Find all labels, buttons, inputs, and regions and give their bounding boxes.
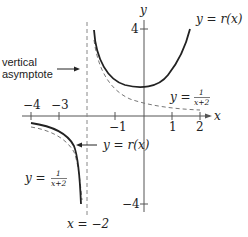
asymptote-label-line2: asymptote: [2, 68, 53, 80]
reciprocal-label-left: y = 1 x+2: [24, 169, 67, 188]
r-label-top: y = r(x): [195, 12, 243, 26]
svg-text:y =: y =: [24, 171, 46, 185]
svg-text:y =: y =: [169, 90, 191, 104]
x-axis-arrow-icon: [205, 114, 212, 119]
tick-label-yneg4: −4: [122, 197, 140, 211]
tick-label-2: 2: [196, 120, 204, 134]
r-curve-right: [94, 29, 190, 87]
tick-label-1: 1: [169, 120, 177, 134]
left-branch-arrow-icon: [76, 143, 82, 148]
reciprocal-label-right: y = 1 x+2: [169, 88, 210, 107]
svg-text:x+2: x+2: [51, 179, 67, 188]
tick-label-neg1: −1: [109, 120, 127, 134]
reciprocal-curve-left: [31, 127, 82, 200]
r-curve-left: [31, 123, 81, 204]
svg-text:1: 1: [56, 169, 61, 178]
tick-label-neg4: −4: [23, 98, 41, 112]
r-label-left: y = r(x): [102, 138, 150, 152]
graph-canvas: −4 −3 −1 1 2 4 −4 x y vertical asymptote…: [0, 0, 248, 237]
asymptote-label-line1: vertical: [2, 56, 37, 68]
svg-text:x+2: x+2: [194, 98, 210, 107]
tick-label-y4: 4: [131, 22, 139, 36]
asymptote-equation: x = −2: [67, 217, 109, 231]
x-axis-label: x: [214, 109, 221, 123]
tick-label-neg3: −3: [51, 98, 69, 112]
y-axis-label: y: [139, 3, 147, 17]
asymptote-arrow-icon: [74, 67, 80, 72]
svg-text:1: 1: [199, 88, 204, 97]
